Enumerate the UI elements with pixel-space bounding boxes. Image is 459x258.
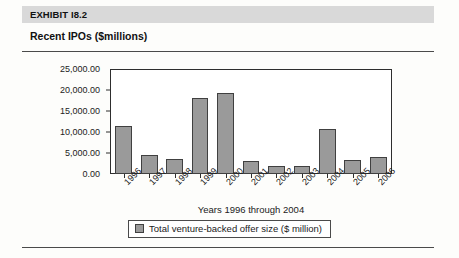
legend-label: Total venture-backed offer size ($ milli… (149, 223, 322, 234)
bar-1996 (115, 126, 132, 174)
bar-2004 (319, 129, 336, 174)
bar-series (111, 70, 391, 174)
bar-chart: 25,000.0020,000.0015,000.0010,000.005,00… (22, 55, 434, 245)
exhibit-subtitle: Recent IPOs ($millions) (30, 29, 147, 43)
y-tick-label: 15,000.00 (60, 107, 100, 116)
x-axis-title: Years 1996 through 2004 (110, 204, 392, 215)
y-tick-label: 25,000.00 (60, 65, 100, 74)
chart-legend: Total venture-backed offer size ($ milli… (128, 220, 331, 238)
bar-1999 (192, 98, 209, 174)
y-tick-label: 5,000.00 (65, 149, 100, 158)
divider-bottom (22, 247, 434, 248)
legend-color-swatch (135, 224, 144, 233)
bar-2000 (217, 93, 234, 174)
divider-top (22, 51, 434, 52)
exhibit-label: EXHIBIT I8.2 (30, 8, 87, 21)
y-tick-label: 10,000.00 (60, 128, 100, 137)
exhibit-page: EXHIBIT I8.2 Recent IPOs ($millions) 25,… (0, 0, 459, 258)
y-axis: 25,000.0020,000.0015,000.0010,000.005,00… (22, 69, 106, 174)
y-tick-label: 20,000.00 (60, 86, 100, 95)
y-tick-label: 0.00 (82, 170, 100, 179)
